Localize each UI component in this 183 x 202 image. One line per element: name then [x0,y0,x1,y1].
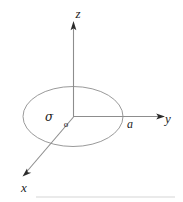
disk-radius-label: a [127,117,133,131]
x-axis-label: x [20,180,27,195]
x-axis-arrowhead-icon [23,169,32,177]
z-axis-label: z [74,6,80,21]
coordinate-diagram: z y x o σ a [0,0,183,202]
figure-root: z y x o σ a [0,0,183,202]
y-axis-label: y [163,111,171,126]
surface-charge-density-label: σ [45,110,54,124]
origin-label: o [64,119,69,129]
